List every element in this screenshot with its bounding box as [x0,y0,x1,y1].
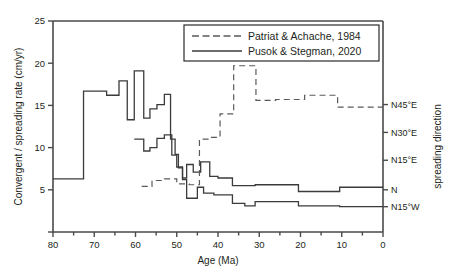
x-tick-label: 30 [254,239,265,250]
y-tick-label: 15 [34,100,45,111]
y2-tick-label: N [391,185,398,195]
y2-tick-label: N15°W [391,202,420,212]
chart-figure: 80706050403020100510152025N15°WNN15°EN30… [0,0,464,280]
x-tick-label: 50 [171,239,182,250]
y2-axis-title: spreading direction [432,104,443,189]
x-tick-label: 10 [336,239,347,250]
x-axis-title: Age (Ma) [197,255,238,266]
x-tick-label: 20 [295,239,306,250]
y2-tick-label: N15°E [391,155,417,165]
y-tick-label: 10 [34,142,45,153]
x-tick-label: 80 [48,239,59,250]
x-tick-label: 60 [130,239,141,250]
x-tick-label: 0 [380,239,385,250]
x-tick-label: 70 [89,239,100,250]
x-tick-label: 40 [213,239,224,250]
legend-label-1: Pusok & Stegman, 2020 [248,45,361,57]
y2-tick-label: N30°E [391,128,417,138]
y-tick-label: 20 [34,58,45,69]
y-axis-title: Convergent / spreading rate (cm/yr) [13,48,24,206]
y-tick-label: 5 [40,184,45,195]
legend-label-0: Patriat & Achache, 1984 [248,30,361,42]
y2-tick-label: N45°E [391,100,417,110]
y-tick-label: 25 [34,15,45,26]
